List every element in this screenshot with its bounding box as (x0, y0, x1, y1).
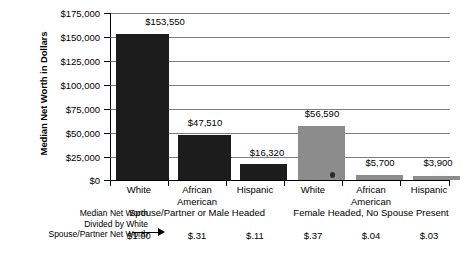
ratio-hispanic-female: $.03 (400, 230, 458, 241)
bar-value-label-hispanic-spouse: $16,320 (212, 147, 322, 158)
bar-value-label-african-american-spouse: $47,510 (150, 117, 260, 128)
x-category-hispanic-female: Hispanic (400, 184, 458, 196)
bar-speck-artifact (330, 172, 335, 178)
y-tick-label-50000: $50,000 (0, 128, 100, 139)
y-tick-label-100000: $100,000 (0, 80, 100, 91)
ratio-african-american-spouse: $.31 (168, 230, 226, 241)
ratio-white-female: $.37 (284, 230, 342, 241)
bar-value-label-hispanic-female: $3,900 (383, 157, 470, 168)
bar-value-label-white-female: $56,590 (267, 108, 377, 119)
y-tick-label-175000: $175,000 (0, 8, 100, 19)
x-category-line2: American (351, 196, 391, 207)
y-tick-label-75000: $75,000 (0, 104, 100, 115)
x-axis-line (110, 180, 450, 181)
y-tick-label-25000: $25,000 (0, 152, 100, 163)
ratio-annotation-line2: Divided by White (8, 219, 148, 230)
group-label-female-headed: Female Headed, No Spouse Present (284, 207, 458, 218)
bar-hispanic-female[interactable] (413, 176, 460, 180)
x-category-african-american-spouse: African American (168, 184, 226, 207)
x-category-line1: Hispanic (411, 184, 447, 195)
annotation-arrow-head-icon (158, 228, 165, 236)
x-category-line1: African (182, 184, 212, 195)
annotation-arrow-line (132, 232, 160, 233)
bar-white-spouse[interactable] (116, 34, 169, 181)
y-tick-label-0: $0 (0, 175, 100, 186)
bar-hispanic-spouse[interactable] (240, 164, 287, 180)
y-tick-label-125000: $125,000 (0, 56, 100, 67)
x-category-line2: American (177, 196, 217, 207)
ratio-hispanic-spouse: $.11 (226, 230, 284, 241)
net-worth-bar-chart: Median Net Worth in Dollars $175,000 $15… (0, 0, 470, 253)
x-category-line1: African (356, 184, 386, 195)
y-tick-label-150000: $150,000 (0, 32, 100, 43)
x-category-line1: White (127, 184, 151, 195)
x-category-hispanic-spouse: Hispanic (226, 184, 284, 196)
x-category-line1: White (301, 184, 325, 195)
x-category-line1: Hispanic (237, 184, 273, 195)
ratio-annotation-line3: Spouse/Partner Net Worth (8, 229, 148, 240)
ratio-african-american-female: $.04 (342, 230, 400, 241)
ratio-annotation-line1: Median Net Worth (8, 208, 148, 219)
x-category-white-spouse: White (110, 184, 168, 196)
ratio-annotation: Median Net Worth Divided by White Spouse… (8, 208, 148, 240)
x-category-white-female: White (284, 184, 342, 196)
bar-african-american-female[interactable] (356, 175, 403, 180)
bar-value-label-white-spouse: $153,550 (110, 16, 220, 27)
x-category-african-american-female: African American (342, 184, 400, 207)
